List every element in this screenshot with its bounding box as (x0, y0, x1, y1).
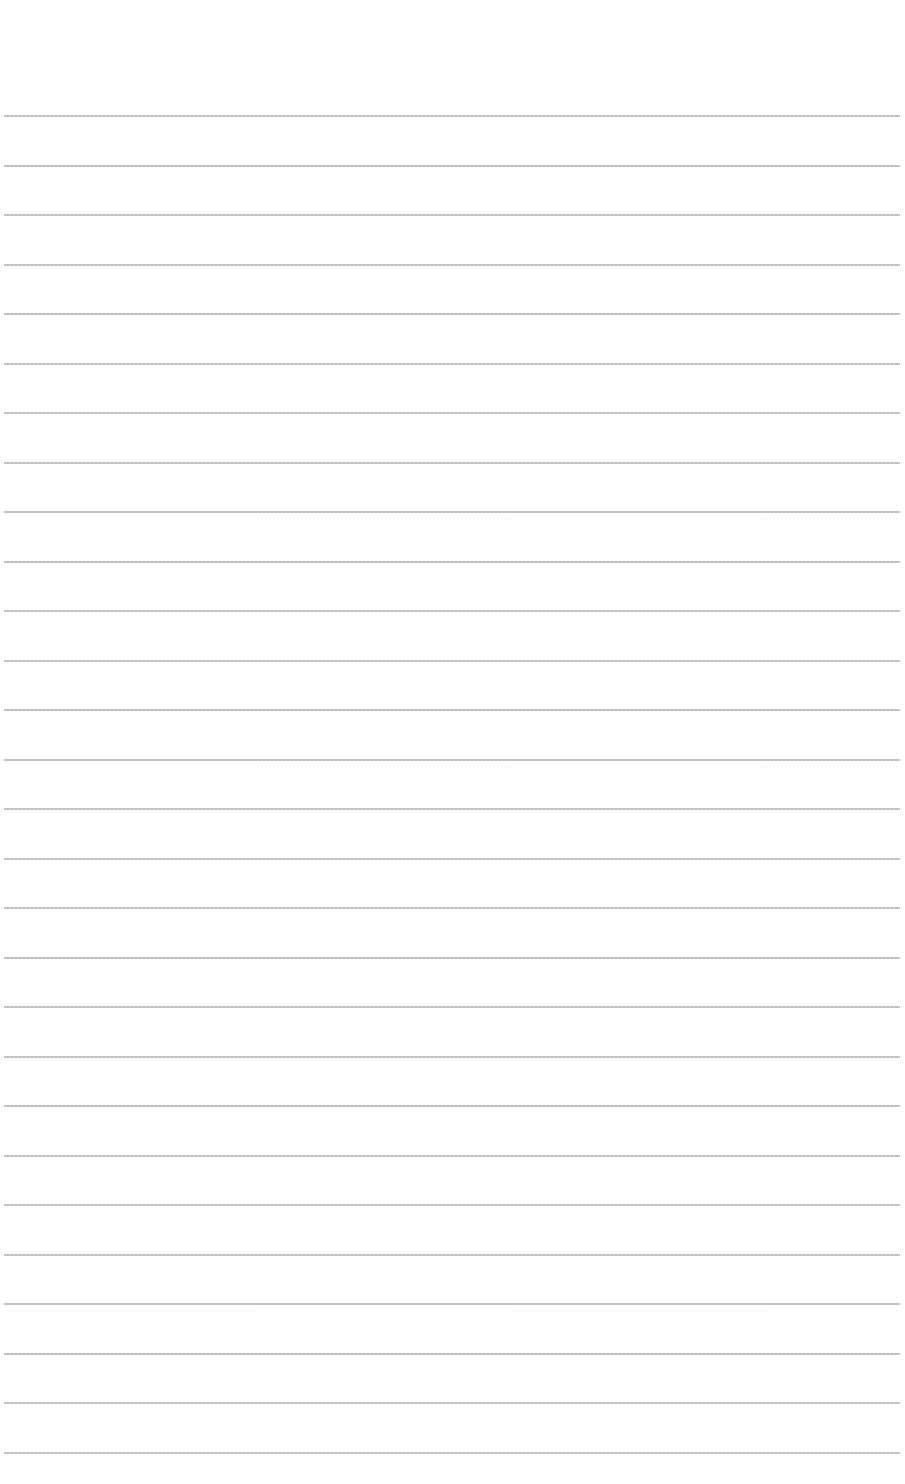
ruled-line (4, 660, 900, 662)
ruled-line (4, 214, 900, 216)
ruled-line (4, 363, 900, 365)
ruled-line (4, 412, 900, 414)
ruled-line (4, 808, 900, 810)
ruled-line (4, 1105, 900, 1107)
ruled-line (4, 115, 900, 117)
lined-paper-page (0, 0, 905, 1484)
ruled-line (4, 907, 900, 909)
ruled-line (4, 313, 900, 315)
ruled-line (4, 165, 900, 167)
ruled-line (4, 1056, 900, 1058)
ruled-line (4, 1353, 900, 1355)
ruled-line (4, 511, 900, 513)
ruled-line (4, 858, 900, 860)
ruled-line (4, 1452, 900, 1454)
ruled-line (4, 561, 900, 563)
ruled-line (4, 1006, 900, 1008)
ruled-line (4, 1204, 900, 1206)
ruled-line (4, 610, 900, 612)
ruled-line (4, 709, 900, 711)
ruled-line (4, 1155, 900, 1157)
ruled-line (4, 759, 900, 761)
ruled-line (4, 1254, 900, 1256)
ruled-line (4, 1402, 900, 1404)
ruled-line (4, 1303, 900, 1305)
ruled-line (4, 462, 900, 464)
ruled-line (4, 957, 900, 959)
ruled-line (4, 264, 900, 266)
